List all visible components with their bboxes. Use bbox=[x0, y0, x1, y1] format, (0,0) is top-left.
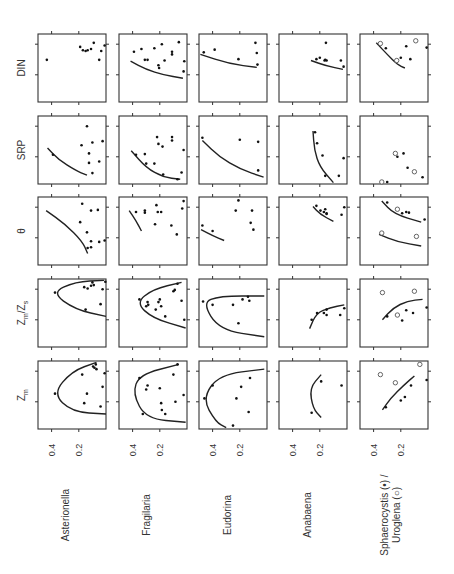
data-point-filled bbox=[211, 384, 214, 387]
data-point-filled bbox=[201, 224, 204, 227]
data-point-filled bbox=[249, 377, 252, 380]
data-point-filled bbox=[101, 140, 104, 143]
data-point-filled bbox=[86, 287, 89, 290]
panel--anabaena bbox=[276, 194, 350, 268]
data-point-filled bbox=[237, 322, 240, 325]
col-label-eudorina: Eudorina bbox=[222, 495, 233, 535]
fitted-curve bbox=[382, 299, 422, 319]
data-point-filled bbox=[173, 289, 176, 292]
data-point-filled bbox=[183, 60, 186, 63]
data-point-filled bbox=[161, 409, 164, 412]
fitted-curve bbox=[129, 211, 141, 231]
fitted-curve bbox=[313, 207, 333, 222]
data-point-filled bbox=[171, 139, 174, 142]
data-point-filled bbox=[144, 211, 147, 214]
fitted-curve bbox=[207, 296, 265, 337]
data-point-filled bbox=[249, 222, 252, 225]
data-point-filled bbox=[181, 207, 184, 210]
figure-grid: DIN SRP θ Zm/Zs Zm 0.40.20.40.20.40.20.4… bbox=[0, 0, 454, 574]
panel-din-asterionella bbox=[35, 31, 109, 105]
data-point-open bbox=[412, 170, 416, 174]
data-point-filled bbox=[410, 384, 413, 387]
data-point-filled bbox=[101, 288, 104, 291]
data-point-filled bbox=[159, 387, 162, 390]
data-point-filled bbox=[156, 136, 159, 139]
tick-label: 0.4 bbox=[208, 444, 218, 457]
data-point-filled bbox=[211, 230, 214, 233]
fitted-curve bbox=[382, 376, 414, 410]
data-point-filled bbox=[153, 162, 156, 165]
data-point-filled bbox=[240, 386, 243, 389]
data-point-open bbox=[414, 234, 418, 238]
data-point-filled bbox=[252, 228, 255, 231]
data-point-filled bbox=[162, 173, 165, 176]
fitted-curve bbox=[376, 43, 405, 68]
data-point-filled bbox=[91, 281, 94, 284]
data-point-filled bbox=[82, 49, 85, 52]
data-point-filled bbox=[183, 319, 186, 322]
data-point-filled bbox=[201, 136, 204, 139]
data-point-filled bbox=[140, 48, 143, 51]
data-point-filled bbox=[402, 152, 405, 155]
data-point-filled bbox=[325, 59, 328, 62]
data-point-filled bbox=[176, 233, 179, 236]
data-point-filled bbox=[396, 156, 399, 159]
data-point-open bbox=[380, 180, 384, 184]
panel-frame bbox=[279, 279, 347, 347]
data-point-filled bbox=[163, 59, 166, 62]
data-point-filled bbox=[90, 246, 93, 249]
data-point-filled bbox=[180, 299, 183, 302]
data-point-filled bbox=[340, 213, 343, 216]
col-label-fragilaria: Fragilaria bbox=[141, 494, 152, 536]
data-point-filled bbox=[257, 141, 260, 144]
data-point-filled bbox=[404, 396, 407, 399]
data-point-filled bbox=[156, 211, 159, 214]
data-point-filled bbox=[343, 307, 346, 310]
data-point-filled bbox=[401, 319, 404, 322]
data-point-filled bbox=[172, 373, 175, 376]
data-point-filled bbox=[54, 392, 57, 395]
data-point-filled bbox=[203, 397, 206, 400]
svg-text:Zm/Zs: Zm/Zs bbox=[16, 300, 29, 325]
data-point-filled bbox=[256, 63, 259, 66]
data-point-filled bbox=[99, 303, 102, 306]
data-point-filled bbox=[138, 377, 141, 380]
data-point-filled bbox=[153, 47, 156, 50]
data-point-filled bbox=[323, 211, 326, 214]
data-point-filled bbox=[99, 405, 102, 408]
data-point-filled bbox=[412, 312, 415, 315]
row-label-srp: SRP bbox=[16, 139, 27, 160]
data-point-open bbox=[395, 313, 399, 317]
data-point-filled bbox=[160, 402, 163, 405]
data-point-filled bbox=[314, 131, 317, 134]
data-point-filled bbox=[92, 42, 95, 45]
data-point-open bbox=[380, 290, 384, 294]
data-point-filled bbox=[234, 209, 237, 212]
data-point-filled bbox=[52, 153, 55, 156]
data-point-filled bbox=[315, 58, 318, 61]
data-point-filled bbox=[239, 139, 242, 142]
data-point-filled bbox=[144, 153, 147, 156]
data-point-filled bbox=[324, 175, 327, 178]
data-point-filled bbox=[81, 373, 84, 376]
panel-zm-zs-asterionella bbox=[35, 276, 109, 350]
data-point-filled bbox=[158, 67, 161, 70]
panel-din-sphaerocystis-uroglena bbox=[357, 31, 431, 105]
data-point-filled bbox=[100, 50, 103, 53]
data-point-filled bbox=[92, 284, 95, 287]
data-point-filled bbox=[79, 221, 82, 224]
col-label-sphaerocystis: Sphaerocystis (•) / bbox=[379, 474, 390, 556]
data-point-filled bbox=[425, 46, 428, 49]
data-point-filled bbox=[232, 304, 235, 307]
tick-label: 0.2 bbox=[396, 444, 406, 457]
panel-frame bbox=[360, 197, 428, 265]
tick-label: 0.4 bbox=[47, 444, 57, 457]
tick-label: 0.2 bbox=[74, 444, 84, 457]
data-point-filled bbox=[251, 209, 254, 212]
panel-frame bbox=[199, 34, 267, 102]
data-point-filled bbox=[241, 298, 244, 301]
data-point-filled bbox=[310, 411, 313, 414]
fitted-curve bbox=[202, 140, 263, 177]
data-point-filled bbox=[95, 368, 98, 371]
panel-frame bbox=[119, 116, 187, 184]
